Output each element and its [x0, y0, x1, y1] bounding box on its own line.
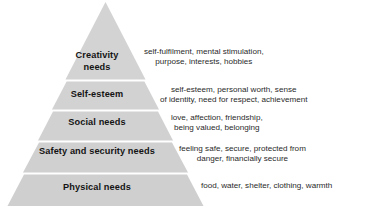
tier-label-physical-needs: Physical needs [33, 182, 161, 194]
tier-description-creativity-needs: self-fulfilment, mental stimulation, pur… [144, 47, 264, 68]
tier-description-social-needs: love, affection, friendship, being value… [171, 113, 263, 134]
tier-label-creativity-needs: Creativity needs [59, 50, 135, 73]
tier-description-line-1: feeling safe, secure, protected from [179, 144, 306, 153]
tier-description-line-2: purpose, interests, hobbies [155, 57, 252, 66]
tier-description-line-2: of identity, need for respect, achieveme… [160, 95, 307, 104]
tier-label-social-needs: Social needs [45, 117, 149, 129]
tier-description-line-2: being valued, belonging [174, 123, 260, 132]
tier-label-line-1: Safety and security needs [39, 146, 155, 156]
tier-label-safety-and-security-needs: Safety and security needs [18, 146, 176, 158]
maslow-pyramid-diagram: Creativity needs Self-esteem Social need… [0, 0, 377, 213]
tier-label-line-2: needs [83, 62, 110, 72]
tier-description-physical-needs: food, water, shelter, clothing, warmth [201, 181, 332, 191]
tier-label-line-1: Social needs [68, 117, 125, 127]
tier-description-line-2: danger, financially secure [197, 154, 288, 163]
tier-label-line-1: Creativity [76, 50, 119, 60]
tier-label-self-esteem: Self-esteem [52, 89, 142, 101]
tier-description-line-1: food, water, shelter, clothing, warmth [201, 181, 332, 190]
tier-description-line-1: self-esteem, personal worth, sense [171, 85, 297, 94]
tier-description-line-1: love, affection, friendship, [171, 113, 263, 122]
tier-description-safety-and-security-needs: feeling safe, secure, protected from dan… [179, 144, 306, 165]
tier-description-self-esteem: self-esteem, personal worth, sense of id… [160, 85, 307, 106]
tier-label-line-1: Self-esteem [71, 89, 124, 99]
tier-description-line-1: self-fulfilment, mental stimulation, [144, 47, 264, 56]
tier-label-line-1: Physical needs [63, 182, 131, 192]
